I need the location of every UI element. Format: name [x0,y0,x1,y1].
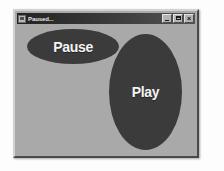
title-bar[interactable]: Paused... × [17,13,195,24]
window-controls: × [162,14,194,23]
close-button[interactable]: × [184,14,194,23]
play-button[interactable]: Play [109,34,182,150]
minimize-icon [165,20,169,21]
minimize-button[interactable] [162,14,172,23]
client-area: Pause Play [17,25,195,154]
window-title: Paused... [28,15,162,23]
play-button-label: Play [132,84,160,100]
application-window: Paused... × Pause Play [13,9,199,158]
maximize-icon [176,16,181,20]
pause-button-label: Pause [53,39,93,55]
maximize-button[interactable] [173,14,183,23]
page-background: Paused... × Pause Play [0,0,224,171]
close-icon: × [185,15,193,22]
pause-button[interactable]: Pause [27,29,119,64]
system-menu-icon[interactable] [18,15,26,23]
